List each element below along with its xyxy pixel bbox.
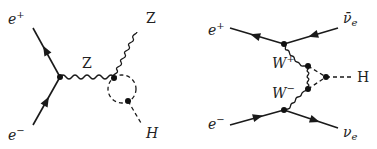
vertex-dot [323, 74, 329, 80]
arrow-icon [40, 44, 52, 57]
electron-line [230, 110, 284, 125]
label-electron: e− [208, 114, 225, 132]
label-positron: e+ [8, 9, 25, 27]
arrow-icon [41, 95, 53, 108]
higgs-triangle-lower [308, 77, 326, 89]
diagram-left-zh-loop: e+ e− Z Z H [8, 9, 159, 143]
vertex-dot [305, 86, 311, 92]
label-electron: e− [8, 125, 25, 143]
positron-line [230, 28, 284, 44]
label-higgs: H [145, 125, 159, 141]
label-z-outgoing: Z [146, 10, 156, 26]
label-w-plus: W+ [272, 53, 295, 71]
electron-line [33, 77, 60, 125]
label-z-propagator: Z [82, 55, 92, 71]
z-outgoing [113, 32, 137, 78]
diagram-right-ww-fusion-loop: e+ e− ν̄e νe W+ W− H [208, 10, 369, 142]
label-w-minus: W− [272, 83, 295, 101]
vertex-dot [281, 41, 287, 47]
vertex-dot [57, 74, 63, 80]
vertex-dot [125, 98, 131, 104]
higgs-outgoing [128, 101, 141, 123]
label-neutrino: νe [343, 124, 358, 142]
feynman-diagrams-figure: e+ e− Z Z H [0, 0, 377, 149]
vertex-dot [281, 107, 287, 113]
label-antineutrino: ν̄e [343, 10, 358, 28]
w-internal-propagator [307, 66, 309, 89]
vertex-dot [305, 63, 311, 69]
arrow-icon [307, 30, 319, 41]
arrow-icon [309, 115, 321, 126]
neutrino-line [284, 110, 338, 128]
label-higgs: H [357, 69, 369, 85]
z-propagator [60, 75, 114, 79]
label-positron: e+ [208, 20, 225, 38]
antineutrino-line [284, 28, 338, 44]
higgs-triangle-upper [308, 66, 326, 77]
vertex-dot [111, 75, 117, 81]
arrow-icon [249, 30, 261, 41]
positron-line [33, 28, 60, 77]
